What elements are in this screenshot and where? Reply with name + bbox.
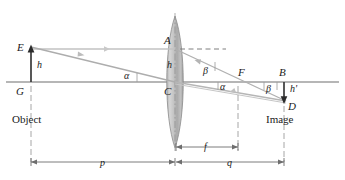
dimension-label-f: f [204, 141, 208, 152]
ray-bundle [31, 46, 286, 103]
object-arrow [28, 45, 35, 83]
angle-label-alpha-object: α [124, 70, 130, 81]
height-label-h-object: h [37, 59, 42, 70]
dimension-label-q: q [227, 157, 232, 168]
height-label-h-image: h' [290, 83, 298, 94]
point-label-C: C [164, 85, 172, 97]
ray-direction-marker [104, 46, 110, 51]
angle-label-alpha-image: α [220, 81, 226, 92]
point-label-B: B [279, 66, 286, 78]
angle-label-beta-image: β [265, 83, 271, 94]
diagram-canvas: E h G Object α A h C β α F β B h' D Imag… [0, 0, 345, 180]
dimension-label-p: p [99, 157, 105, 168]
ray-direction-marker [78, 52, 85, 57]
caption-image: Image [266, 113, 294, 125]
ray-direction-marker [230, 88, 236, 93]
point-label-A: A [163, 34, 171, 46]
point-label-E: E [16, 41, 24, 53]
point-label-D: D [287, 100, 296, 112]
ray-chief-incident [31, 47, 175, 82]
point-label-G: G [16, 85, 24, 97]
ray-direction-marker [195, 59, 202, 64]
optics-ray-diagram: E h G Object α A h C β α F β B h' D Imag… [0, 0, 345, 180]
height-label-h-lens: h [167, 59, 172, 70]
point-label-F: F [237, 66, 245, 78]
dimension-f [176, 143, 238, 151]
caption-object: Object [12, 113, 41, 125]
angle-label-beta-lens: β [202, 65, 208, 76]
